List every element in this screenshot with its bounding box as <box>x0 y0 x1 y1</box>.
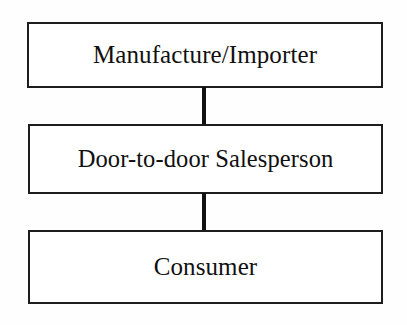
node-consumer-label: Consumer <box>154 254 258 280</box>
node-salesperson-label: Door-to-door Salesperson <box>78 146 334 172</box>
node-manufacturer-label: Manufacture/Importer <box>93 42 317 68</box>
connector-salesperson-to-consumer <box>202 193 206 231</box>
node-consumer: Consumer <box>28 230 383 304</box>
connector-manufacturer-to-salesperson <box>202 87 206 125</box>
node-manufacturer: Manufacture/Importer <box>27 22 383 88</box>
distribution-flow-diagram: Manufacture/Importer Door-to-door Salesp… <box>0 0 407 325</box>
node-salesperson: Door-to-door Salesperson <box>28 124 383 194</box>
